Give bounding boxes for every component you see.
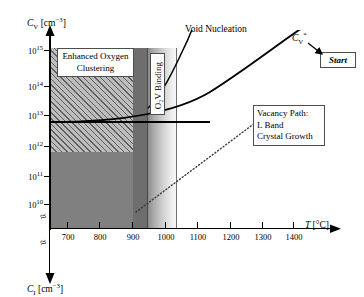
y-tick-10 <box>44 204 50 205</box>
y-tick-12 <box>44 146 50 147</box>
y-tick-14 <box>44 86 50 87</box>
x-tick-800 <box>99 222 100 229</box>
figure-canvas: CV [cm−3] Enhanced Oxygen Clustering <box>0 0 364 297</box>
secondary-axis-line <box>49 230 50 276</box>
secondary-axis-break-icon: ≈ <box>38 235 47 248</box>
y-tick-13 <box>44 115 50 116</box>
x-tick-label-1000: 1000 <box>149 232 183 242</box>
x-tick-label-1100: 1100 <box>181 232 215 242</box>
void-nucleation-text: Void Nucleation <box>185 24 247 34</box>
x-tick-1400 <box>293 222 294 229</box>
y-tick-label-11: 1011 <box>13 170 43 182</box>
y-tick-label-14: 1014 <box>13 80 43 92</box>
x-tick-1100 <box>197 222 198 229</box>
x-tick-label-700: 700 <box>51 232 85 242</box>
y-axis-line <box>49 34 51 230</box>
vacancy-line2: L Band <box>257 120 283 130</box>
label-enhanced-oxygen-clustering: Enhanced Oxygen Clustering <box>57 48 134 77</box>
y-tick-label-13: 1013 <box>13 109 43 121</box>
y-axis-break-icon: ≈ <box>38 209 47 222</box>
x-tick-1300 <box>262 222 263 229</box>
label-o2v-binding: O₂V Binding <box>150 53 165 115</box>
x-tick-label-900: 900 <box>116 232 150 242</box>
x-axis-line <box>49 228 334 229</box>
x-tick-label-800: 800 <box>83 232 117 242</box>
x-tick-label-1300: 1300 <box>246 232 280 242</box>
vacancy-line3: Crystal Growth <box>257 131 313 141</box>
eoc-line2: Clustering <box>77 63 115 73</box>
x-tick-900 <box>132 222 133 229</box>
y-axis-arrowhead <box>44 25 56 39</box>
label-vacancy-path: Vacancy Path: L Band Crystal Growth <box>253 105 325 146</box>
x-axis-arrowhead <box>330 223 344 235</box>
y-tick-11 <box>44 176 50 177</box>
y-tick-label-15: 1015 <box>13 44 43 56</box>
x-tick-1000 <box>165 222 166 229</box>
start-label: Start <box>329 55 347 65</box>
y-tick-15 <box>44 50 50 51</box>
cv-star-superscript: * <box>303 31 306 38</box>
eoc-line1: Enhanced Oxygen <box>62 51 128 61</box>
y-tick-label-12: 1012 <box>13 140 43 152</box>
x-tick-label-1200: 1200 <box>214 232 248 242</box>
secondary-axis-title: CI [cm−3] <box>27 282 63 296</box>
start-arrow-icon <box>300 38 330 60</box>
label-void-nucleation: Void Nucleation <box>185 24 247 34</box>
x-tick-label-1400: 1400 <box>277 232 311 242</box>
y-tick-label-10: 1010 <box>13 198 43 210</box>
o2v-binding-text: O₂V Binding <box>151 54 166 116</box>
x-tick-700 <box>67 222 68 229</box>
critical-vacancy-dotted-line <box>136 123 255 212</box>
x-axis-title: T [°C] <box>305 220 329 230</box>
vacancy-line1: Vacancy Path: <box>257 108 308 118</box>
x-tick-1200 <box>230 222 231 229</box>
